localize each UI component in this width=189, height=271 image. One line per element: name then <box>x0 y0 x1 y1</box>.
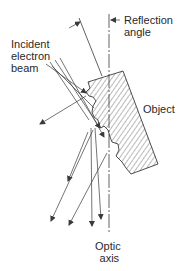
object-label: Object <box>143 103 175 115</box>
optic-axis-label-line2: axis <box>95 252 121 264</box>
angle-arrow-left <box>69 22 80 28</box>
incident-beam-label-line2: electron <box>11 50 50 62</box>
reflection-angle-label-line2: angle <box>124 26 173 38</box>
optic-axis-label-line1: Optic <box>95 240 121 252</box>
surface-normal-line <box>79 18 102 76</box>
reflection-angle-label: Reflection angle <box>124 14 173 38</box>
incident-beam-label-line1: Incident <box>11 38 50 50</box>
optic-axis-label: Optic axis <box>95 240 121 264</box>
reflection-angle-label-line1: Reflection <box>124 14 173 26</box>
incident-beam-label-line3: beam <box>11 62 50 74</box>
object-label-text: Object <box>143 103 175 115</box>
incident-beam-label: Incident electron beam <box>11 38 50 74</box>
